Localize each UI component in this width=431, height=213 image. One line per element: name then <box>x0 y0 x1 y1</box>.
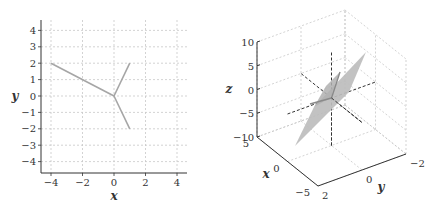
y-tick-label: −1 <box>21 107 36 118</box>
y-axis-label: y <box>377 180 386 194</box>
y-tick-label: 3 <box>30 41 36 52</box>
x-tick-label: 4 <box>174 177 180 188</box>
grid-line <box>257 10 345 42</box>
chart-3d-plane: −10−5051050−5−202xyz <box>225 10 425 201</box>
x-tick-label: −4 <box>44 177 59 188</box>
y-tick-label: 0 <box>366 174 372 185</box>
y-tick-label: 2 <box>30 58 36 69</box>
y-tick-label: 0 <box>30 91 36 102</box>
y-tick-label: 2 <box>322 190 328 201</box>
y-tick-label: −2 <box>21 123 36 134</box>
z-tick <box>257 41 260 42</box>
x-tick-label: −5 <box>295 187 310 198</box>
y-tick-label: −2 <box>410 158 425 169</box>
x-tick-label: −2 <box>75 177 90 188</box>
y-axis-label: y <box>11 89 20 103</box>
x-tick-label: 0 <box>111 177 117 188</box>
x-axis-label: x <box>109 189 118 203</box>
vector-2-line <box>114 63 130 96</box>
z-tick-label: 5 <box>248 61 254 72</box>
x-tick-label: 0 <box>273 163 279 174</box>
x-axis-label: x <box>261 167 270 181</box>
z-tick-label: 0 <box>248 85 254 96</box>
y-axis-spine <box>318 154 406 186</box>
x-tick-label: 2 <box>142 177 148 188</box>
x-tick-label: 5 <box>243 138 249 149</box>
chart-2d-vectors: −4−2024−4−3−2−101234xy <box>11 20 187 203</box>
y-tick-label: 4 <box>30 25 36 36</box>
y-tick-label: 1 <box>30 74 36 85</box>
y-tick-label: −4 <box>21 156 36 167</box>
vector-3-line <box>114 96 130 129</box>
z-tick-label: −5 <box>239 108 254 119</box>
z-axis-label: z <box>225 82 234 96</box>
z-tick-label: 10 <box>241 37 254 48</box>
figure: −4−2024−4−3−2−101234xy −10−5051050−5−202… <box>0 0 431 213</box>
y-tick-label: −3 <box>21 140 36 151</box>
